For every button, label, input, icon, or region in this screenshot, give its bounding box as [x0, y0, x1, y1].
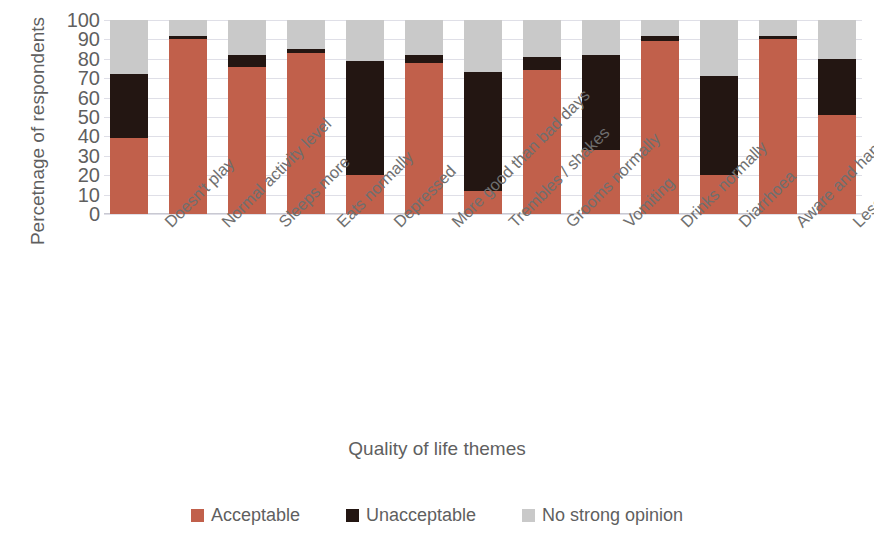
legend-item[interactable]: Unacceptable — [346, 505, 476, 526]
legend-label: Acceptable — [211, 505, 300, 526]
bar-segment-no-strong-opinion[interactable] — [641, 20, 679, 36]
x-axis-tick-label: Normal activity level — [218, 218, 231, 231]
bar-segment-no-strong-opinion[interactable] — [464, 20, 502, 72]
bar-segment-unacceptable[interactable] — [818, 59, 856, 115]
bar-segment-no-strong-opinion[interactable] — [818, 20, 856, 59]
legend-swatch-icon — [191, 509, 204, 522]
x-axis-tick-label: Depressed — [390, 218, 403, 231]
bar-stack[interactable] — [110, 20, 148, 214]
bar-segment-no-strong-opinion[interactable] — [759, 20, 797, 36]
legend-label: No strong opinion — [542, 505, 683, 526]
x-axis-tick-label: Diarrhoea — [735, 218, 748, 231]
y-axis-tick-label: 60 — [78, 88, 100, 108]
y-axis-tick-label: 70 — [78, 68, 100, 88]
bar-segment-no-strong-opinion[interactable] — [228, 20, 266, 55]
bar-segment-no-strong-opinion[interactable] — [346, 20, 384, 61]
y-axis-tick-label: 100 — [67, 10, 100, 30]
x-axis-tick-label: More good than bad days — [448, 218, 461, 231]
bar-segment-no-strong-opinion[interactable] — [523, 20, 561, 57]
x-axis-tick-labels: Doesn't playNormal activity levelSleeps … — [104, 218, 862, 328]
y-axis-tick-label: 10 — [78, 185, 100, 205]
bar-segment-no-strong-opinion[interactable] — [405, 20, 443, 55]
bar-segment-unacceptable[interactable] — [228, 55, 266, 67]
y-axis-tick-label: 90 — [78, 29, 100, 49]
bar-segment-no-strong-opinion[interactable] — [582, 20, 620, 55]
x-axis-tick-label: Drinks normally — [677, 218, 690, 231]
x-axis-tick-label: Doesn't play — [161, 218, 174, 231]
y-axis-tick-label: 80 — [78, 49, 100, 69]
legend-item[interactable]: No strong opinion — [522, 505, 683, 526]
x-axis-tick-label: Vomiting — [620, 218, 633, 231]
legend-label: Unacceptable — [366, 505, 476, 526]
bar-segment-acceptable[interactable] — [110, 138, 148, 214]
legend-swatch-icon — [522, 509, 535, 522]
legend-item[interactable]: Acceptable — [191, 505, 300, 526]
chart-legend: AcceptableUnacceptableNo strong opinion — [0, 505, 874, 526]
y-axis-tick-label: 20 — [78, 165, 100, 185]
bar-segment-no-strong-opinion[interactable] — [169, 20, 207, 36]
bar-segment-no-strong-opinion[interactable] — [287, 20, 325, 49]
y-axis-tick-label: 50 — [78, 107, 100, 127]
x-axis-title: Quality of life themes — [0, 438, 874, 460]
bar-segment-unacceptable[interactable] — [346, 61, 384, 175]
y-axis-tick-label: 0 — [89, 204, 100, 224]
legend-swatch-icon — [346, 509, 359, 522]
bar-segment-unacceptable[interactable] — [523, 57, 561, 71]
y-axis-tick-label: 40 — [78, 126, 100, 146]
x-axis-tick-label: Less active — [849, 218, 862, 231]
bar-segment-unacceptable[interactable] — [405, 55, 443, 63]
y-axis-tick-labels: 0102030405060708090100 — [42, 8, 100, 218]
bar-segment-no-strong-opinion[interactable] — [110, 20, 148, 74]
bar-segment-unacceptable[interactable] — [700, 76, 738, 175]
y-axis-tick-label: 30 — [78, 146, 100, 166]
x-axis-tick-label: Trembles / shakes — [505, 218, 518, 231]
x-axis-tick-label: Eats normally — [333, 218, 346, 231]
x-axis-tick-label: Sleeps more — [275, 218, 288, 231]
bar-slot — [110, 20, 148, 214]
x-axis-tick-label: Aware and happy — [792, 218, 805, 231]
bar-segment-unacceptable[interactable] — [110, 74, 148, 138]
x-axis-tick-label: Grooms normally — [562, 218, 575, 231]
bar-segment-no-strong-opinion[interactable] — [700, 20, 738, 76]
stacked-bar-chart: Percetnage of respondents 01020304050607… — [0, 0, 874, 537]
